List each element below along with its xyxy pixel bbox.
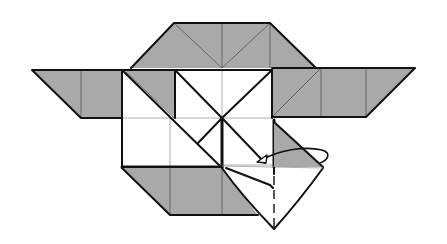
left-wing-flap: [32, 70, 122, 118]
top-flap: [131, 23, 316, 68]
right-wing-flap: [272, 68, 415, 117]
center-square: [122, 70, 274, 168]
origami-diagram: [0, 0, 447, 244]
right-corner-flap: [274, 122, 323, 167]
